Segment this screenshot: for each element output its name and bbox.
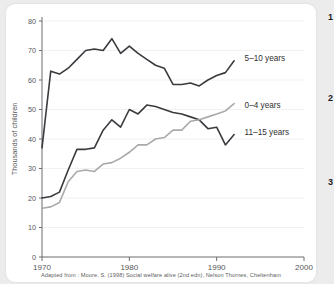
y-tick-label: 80 — [28, 17, 36, 26]
y-tick-label: 30 — [28, 164, 36, 173]
list-marker-3: 3 — [328, 177, 333, 187]
series-label-0-4-years: 0–4 years — [245, 101, 281, 110]
x-tick-label: 2000 — [295, 263, 313, 272]
y-tick-label: 10 — [28, 223, 36, 232]
figure-card: 01020304050607080 1970198019902000 Thous… — [6, 4, 316, 282]
list-marker-2: 2 — [328, 93, 333, 103]
y-tick-label: 70 — [28, 46, 36, 55]
source-caption: Adapted from : Moore, S. (1998) Social w… — [6, 272, 316, 278]
y-tick-label: 60 — [28, 76, 36, 85]
series-label-11-15-years: 11–15 years — [245, 128, 289, 137]
x-tick-label: 1970 — [33, 263, 51, 272]
y-axis-title: Thousands of children — [10, 103, 19, 176]
series-line-0-4-years — [42, 104, 234, 209]
series-line-11-15-years — [42, 105, 234, 198]
y-tick-label: 40 — [28, 135, 36, 144]
x-axis-ticks: 1970198019902000 — [33, 257, 313, 272]
list-marker-1: 1 — [328, 12, 333, 22]
series-line-5-10-years — [42, 39, 234, 148]
y-tick-label: 20 — [28, 194, 36, 203]
y-tick-label: 50 — [28, 105, 36, 114]
x-tick-label: 1990 — [208, 263, 226, 272]
series-labels: 5–10 years11–15 years0–4 years — [245, 54, 289, 137]
series-lines — [42, 39, 234, 209]
y-tick-label: 0 — [32, 253, 36, 262]
gridlines — [42, 21, 304, 228]
series-label-5-10-years: 5–10 years — [245, 54, 286, 63]
line-chart: 01020304050607080 1970198019902000 Thous… — [6, 4, 316, 282]
y-axis-ticks: 01020304050607080 — [28, 17, 42, 262]
x-tick-label: 1980 — [120, 263, 138, 272]
